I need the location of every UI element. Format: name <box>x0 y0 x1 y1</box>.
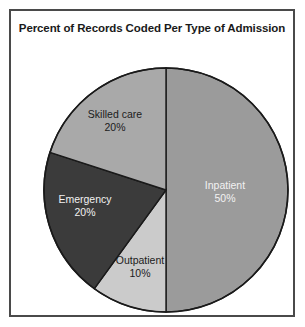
pie-label-skilled-care-value: 20% <box>73 121 157 134</box>
pie-label-outpatient-value: 10% <box>101 267 179 280</box>
chart-figure: Percent of Records Coded Per Type of Adm… <box>0 0 305 327</box>
pie-label-outpatient: Outpatient 10% <box>101 254 179 279</box>
pie-label-emergency: Emergency 20% <box>43 193 127 218</box>
chart-panel: Percent of Records Coded Per Type of Adm… <box>9 9 295 317</box>
pie-label-outpatient-name: Outpatient <box>101 254 179 267</box>
pie-chart <box>11 11 305 327</box>
pie-label-inpatient: Inpatient 50% <box>189 179 261 204</box>
pie-label-skilled-care: Skilled care 20% <box>73 108 157 133</box>
pie-label-inpatient-value: 50% <box>189 192 261 205</box>
pie-label-skilled-care-name: Skilled care <box>73 108 157 121</box>
pie-label-emergency-value: 20% <box>43 206 127 219</box>
pie-label-emergency-name: Emergency <box>43 193 127 206</box>
pie-label-inpatient-name: Inpatient <box>189 179 261 192</box>
